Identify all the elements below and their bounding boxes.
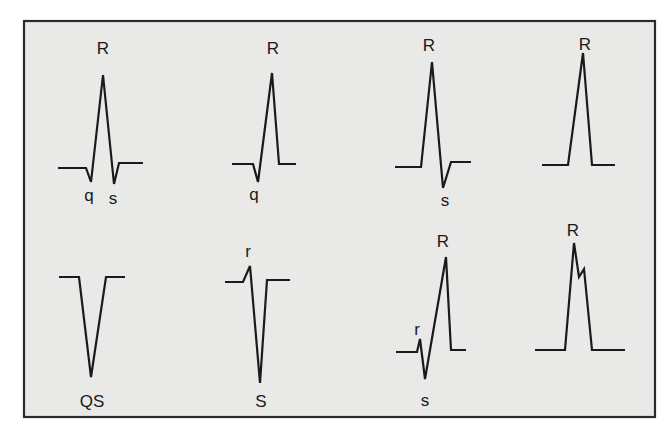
wave-label: s [441, 191, 450, 210]
figure-frame [24, 21, 655, 417]
wave-label: q [249, 185, 258, 204]
wave-label: R [97, 39, 109, 58]
wave-label: R [579, 35, 591, 54]
wave-label: S [255, 392, 266, 411]
wave-label: s [109, 189, 118, 208]
wave-label: R [437, 232, 449, 251]
wave-label: R [423, 36, 435, 55]
wave-label: R [567, 221, 579, 240]
wave-label: R [267, 39, 279, 58]
wave-label: q [84, 186, 93, 205]
qrs-morphology-diagram: RqsRqRsRQSrSrsRR [0, 0, 671, 435]
wave-label: r [245, 242, 251, 261]
wave-label: r [414, 320, 420, 339]
wave-label: QS [80, 392, 105, 411]
wave-label: s [421, 391, 430, 410]
